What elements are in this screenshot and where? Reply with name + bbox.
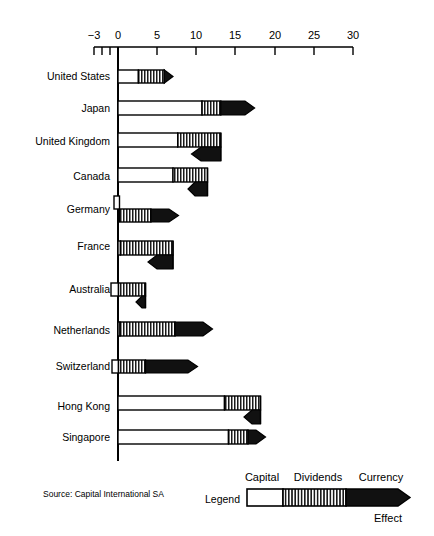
bar-segment-capital <box>118 168 173 182</box>
bar-segment-dividends <box>120 322 175 336</box>
category-label-japan: Japan <box>81 102 110 114</box>
bar-segment-capital <box>111 283 119 296</box>
legend-swatch-capital <box>247 489 283 506</box>
bar-group-netherlands <box>118 322 213 336</box>
bar-segment-dividends <box>173 168 208 182</box>
legend-label-dividends: Dividends <box>294 471 343 483</box>
category-label-united-kingdom: United Kingdom <box>35 135 110 147</box>
category-label-australia: Australia <box>69 283 110 295</box>
axis-tick-label-20: 20 <box>269 29 281 41</box>
axis-tick-label-30: 30 <box>347 29 359 41</box>
category-label-switzerland: Switzerland <box>56 360 110 372</box>
category-label-germany: Germany <box>67 203 111 215</box>
bar-segment-dividends <box>178 133 221 147</box>
bar-segment-dividends <box>202 101 221 115</box>
legend-label-effect: Effect <box>374 512 402 524</box>
legend-swatch-dividends <box>283 489 346 506</box>
bar-segment-dividends <box>121 241 174 255</box>
axis-tick-label-minus3: −3 <box>88 29 101 41</box>
bar-segment-capital <box>118 133 178 147</box>
axis-tick-label-25: 25 <box>308 29 320 41</box>
legend-label-currency: Currency <box>359 471 404 483</box>
bar-segment-dividends <box>119 283 146 296</box>
bar-segment-capital <box>118 70 138 83</box>
axis-tick-label-10: 10 <box>190 29 202 41</box>
category-label-singapore: Singapore <box>62 431 110 443</box>
category-label-hong-kong: Hong Kong <box>57 400 110 412</box>
category-label-france: France <box>77 240 110 252</box>
bar-group-japan <box>118 101 255 115</box>
bar-group-switzerland <box>112 360 198 373</box>
category-label-canada: Canada <box>73 170 110 182</box>
bar-segment-capital <box>114 196 120 209</box>
bar-segment-dividends <box>229 430 249 444</box>
chart-container: −3 0 5 10 15 20 25 30 United States Japa… <box>0 0 434 536</box>
bar-segment-dividends <box>225 396 261 410</box>
bar-group-singapore <box>118 430 266 444</box>
bar-segment-capital <box>118 396 225 410</box>
bar-chart-svg: −3 0 5 10 15 20 25 30 United States Japa… <box>0 0 434 536</box>
source-note: Source: Capital International SA <box>43 489 164 499</box>
bar-segment-currency-arrow <box>146 360 198 373</box>
bar-segment-capital <box>112 360 119 373</box>
category-label-united-states: United States <box>47 70 110 82</box>
bar-segment-dividends <box>119 360 146 373</box>
bar-group-united-states <box>118 70 173 83</box>
legend-swatch-currency-arrow <box>346 489 410 506</box>
axis-tick-label-15: 15 <box>229 29 241 41</box>
axis-tick-label-5: 5 <box>154 29 160 41</box>
category-label-netherlands: Netherlands <box>53 324 110 336</box>
bar-segment-capital <box>118 101 202 115</box>
legend-title: Legend <box>205 493 240 505</box>
legend-label-capital: Capital <box>245 471 279 483</box>
bar-segment-capital <box>118 430 229 444</box>
bar-segment-dividends <box>120 209 151 222</box>
axis-tick-label-0: 0 <box>115 29 121 41</box>
bar-segment-dividends <box>138 70 164 83</box>
